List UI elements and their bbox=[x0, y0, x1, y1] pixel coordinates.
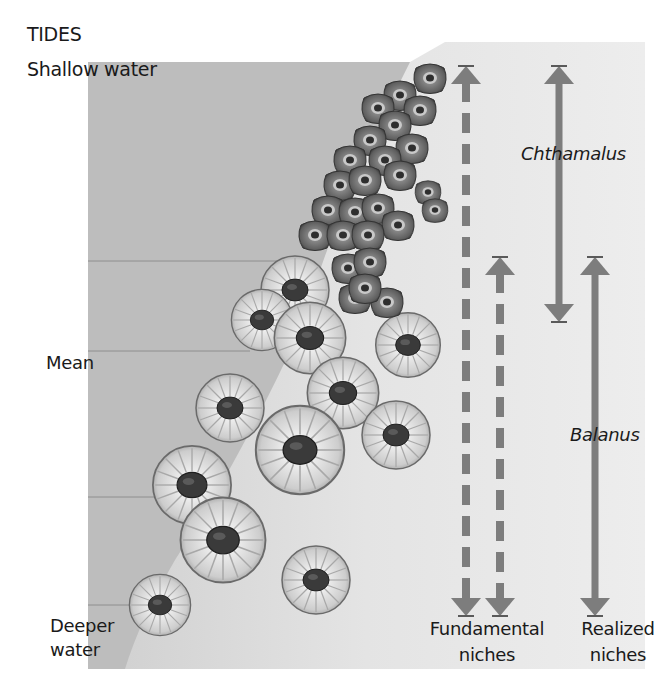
chthamalus-label: Chthamalus bbox=[521, 143, 626, 164]
realized-line2: niches bbox=[568, 642, 668, 668]
deeper-water-line2: water bbox=[50, 638, 114, 662]
fundamental-line1: Fundamental bbox=[418, 616, 556, 642]
diagram-artwork bbox=[0, 0, 672, 692]
deeper-water-label: Deeper water bbox=[50, 614, 114, 662]
mean-tide-label: Mean bbox=[46, 352, 94, 373]
balanus-label: Balanus bbox=[570, 424, 640, 445]
realized-niches-label: Realized niches bbox=[568, 616, 668, 668]
barnacle-niche-diagram: TIDES Shallow water Mean Deeper water Ch… bbox=[0, 0, 672, 692]
fundamental-line2: niches bbox=[418, 642, 556, 668]
deeper-water-line1: Deeper bbox=[50, 614, 114, 638]
realized-line1: Realized bbox=[568, 616, 668, 642]
fundamental-niches-label: Fundamental niches bbox=[418, 616, 556, 668]
tides-heading: TIDES bbox=[27, 23, 81, 45]
shallow-water-label: Shallow water bbox=[27, 58, 157, 80]
